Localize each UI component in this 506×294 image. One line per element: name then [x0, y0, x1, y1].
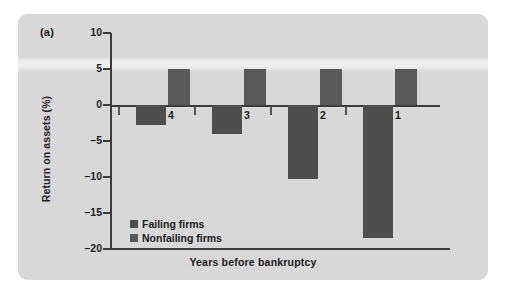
legend-label: Nonfailing firms [142, 232, 222, 244]
x-axis-title: Years before bankruptcy [18, 256, 488, 268]
y-axis-tick-label: –5 [90, 134, 102, 146]
y-axis-title: Return on assets (%) [38, 74, 54, 224]
bar-failing-4 [136, 105, 166, 125]
bar-nonfailing-3 [244, 69, 266, 105]
y-axis-tick-label: –20 [84, 242, 102, 254]
x-axis-group-label-2: 2 [320, 109, 326, 121]
y-axis-tick-label: –15 [84, 206, 102, 218]
y-axis-tick-label: 5 [96, 62, 102, 74]
bar-nonfailing-2 [320, 69, 342, 105]
y-axis-tick [103, 104, 111, 106]
bar-failing-3 [212, 105, 242, 134]
legend-swatch [130, 234, 138, 242]
y-axis-tick [103, 248, 111, 250]
y-axis-tick [103, 68, 111, 70]
y-axis-tick-label: 10 [90, 26, 102, 38]
figure-panel: (a) Return on assets (%) 1050–5–10–15–20… [18, 14, 488, 280]
bar-nonfailing-4 [168, 69, 190, 105]
x-axis-group-label-3: 3 [244, 109, 250, 121]
plot-area: 4321 [110, 33, 462, 249]
y-axis-tick [103, 176, 111, 178]
y-axis-tick [103, 32, 111, 34]
x-axis-tick [194, 107, 196, 115]
bar-failing-2 [288, 105, 318, 179]
y-axis-tick [103, 140, 111, 142]
legend-item: Nonfailing firms [130, 232, 222, 244]
legend-item: Failing firms [130, 218, 222, 230]
y-axis-tick [103, 212, 111, 214]
y-axis-tick-label: 0 [96, 98, 102, 110]
x-axis-group-label-1: 1 [395, 109, 401, 121]
bar-nonfailing-1 [395, 69, 417, 105]
x-axis-tick [270, 107, 272, 115]
legend-swatch [130, 220, 138, 228]
legend: Failing firmsNonfailing firms [130, 218, 222, 244]
x-axis-tick [118, 107, 120, 115]
y-axis-tick-label: –10 [84, 170, 102, 182]
x-axis-tick [345, 107, 347, 115]
panel-label: (a) [40, 26, 54, 38]
y-axis-tick-labels: 1050–5–10–15–20 [66, 33, 102, 249]
legend-label: Failing firms [142, 218, 204, 230]
y-axis-title-text: Return on assets (%) [40, 96, 52, 202]
bottom-axis-line [110, 248, 450, 250]
x-axis-group-label-4: 4 [168, 109, 174, 121]
bar-failing-1 [363, 105, 393, 238]
